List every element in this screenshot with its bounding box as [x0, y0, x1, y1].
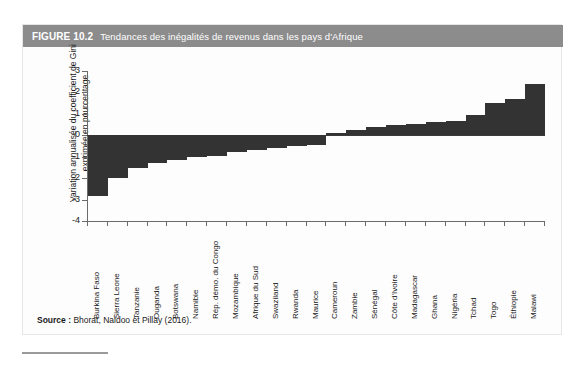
x-tick-mark — [405, 221, 406, 226]
y-tick-mark — [82, 71, 87, 72]
x-tick-mark — [345, 221, 346, 226]
bar[interactable] — [187, 135, 207, 156]
source-text: Bhorat, Naidoo et Pillay (2016). — [73, 315, 191, 325]
y-tick-mark — [82, 114, 87, 115]
x-tick-mark — [266, 221, 267, 226]
y-tick-label: -3 — [72, 194, 80, 204]
bar[interactable] — [307, 135, 327, 145]
chart-plot-area: Variation annualisée du coefficient de G… — [87, 47, 549, 332]
x-tick-mark — [127, 221, 128, 226]
x-tick-mark — [465, 221, 466, 226]
figure-number: FIGURE 10.2 — [32, 31, 93, 42]
x-category-label: Botswana — [172, 284, 180, 319]
x-tick-mark — [87, 221, 88, 226]
bar[interactable] — [386, 125, 406, 136]
x-category-label: Togo — [490, 302, 498, 319]
bar[interactable] — [88, 135, 108, 196]
y-tick-mark — [82, 178, 87, 179]
x-tick-mark — [425, 221, 426, 226]
bar[interactable] — [267, 135, 287, 148]
x-tick-mark — [226, 221, 227, 226]
x-category-label: Maurice — [312, 291, 320, 319]
y-tick-mark — [82, 157, 87, 158]
x-category-label: Rwanda — [292, 290, 300, 319]
bar[interactable] — [505, 99, 525, 135]
figure-card: FIGURE 10.2 Tendances des inégalités de … — [22, 24, 562, 335]
x-tick-mark — [186, 221, 187, 226]
bar[interactable] — [406, 124, 426, 136]
x-tick-mark — [246, 221, 247, 226]
x-tick-mark — [385, 221, 386, 226]
x-tick-mark — [286, 221, 287, 226]
y-axis-title-holder: Variation annualisée du coefficient de G… — [39, 91, 59, 211]
x-category-label: Sénégal — [371, 290, 379, 319]
bar[interactable] — [128, 135, 148, 168]
bar[interactable] — [485, 103, 505, 135]
x-tick-mark — [306, 221, 307, 226]
source-label: Source : — [37, 315, 71, 325]
x-category-label: Rép. démo. du Congo — [212, 241, 220, 319]
x-tick-mark — [524, 221, 525, 226]
y-tick-label: -2 — [72, 172, 80, 182]
x-category-label: Tchad — [470, 298, 478, 319]
bar[interactable] — [366, 127, 386, 136]
bar[interactable] — [326, 133, 346, 135]
x-tick-mark — [147, 221, 148, 226]
x-tick-mark — [107, 221, 108, 226]
bar[interactable] — [207, 135, 227, 155]
bar[interactable] — [247, 135, 267, 150]
bar[interactable] — [148, 135, 168, 163]
bar[interactable] — [346, 130, 366, 135]
x-category-label: Éthiopie — [510, 290, 518, 319]
bar[interactable] — [466, 115, 486, 135]
x-tick-mark — [544, 221, 545, 226]
figure-header: FIGURE 10.2 Tendances des inégalités de … — [23, 25, 563, 47]
bar[interactable] — [287, 135, 307, 146]
x-category-label: Malawi — [530, 294, 538, 319]
x-category-label: Ghana — [431, 295, 439, 319]
bar[interactable] — [108, 135, 128, 178]
y-tick-label: 0 — [75, 129, 80, 139]
x-category-label: Afrique du Sud — [252, 266, 260, 319]
y-tick-mark — [82, 92, 87, 93]
x-axis-line — [87, 221, 545, 222]
y-tick-label: -4 — [72, 215, 80, 225]
x-category-label: Zambie — [351, 292, 359, 319]
x-category-label: Burkina Faso — [93, 272, 101, 319]
x-tick-mark — [206, 221, 207, 226]
x-category-label: Namibie — [192, 290, 200, 319]
x-category-label: Côte d'Ivoire — [391, 274, 399, 319]
x-axis-category-labels: Burkina FasoSierra LeoneTanzanieOugandaB… — [88, 229, 545, 319]
x-tick-mark — [484, 221, 485, 226]
bottom-rule — [22, 352, 108, 354]
x-category-label: Swaziland — [272, 283, 280, 319]
bar[interactable] — [227, 135, 247, 152]
x-tick-mark — [365, 221, 366, 226]
x-category-label: Madagascar — [411, 275, 419, 319]
y-tick-label: 3 — [75, 65, 80, 75]
x-tick-mark — [445, 221, 446, 226]
x-tick-mark — [504, 221, 505, 226]
bar[interactable] — [525, 84, 545, 135]
x-category-label: Mozambique — [232, 273, 240, 319]
bar[interactable] — [426, 122, 446, 135]
y-tick-label: -1 — [72, 151, 80, 161]
x-tick-mark — [166, 221, 167, 226]
bar-series — [88, 71, 545, 221]
x-tick-mark — [325, 221, 326, 226]
x-category-label: Cameroun — [331, 282, 339, 319]
y-tick-mark — [82, 200, 87, 201]
bar[interactable] — [167, 135, 187, 160]
figure-title: Tendances des inégalités de revenus dans… — [100, 31, 363, 42]
y-tick-label: 1 — [75, 108, 80, 118]
y-tick-mark — [82, 135, 87, 136]
x-category-label: Nigéria — [451, 294, 459, 319]
x-category-label: Sierra Leone — [113, 273, 121, 319]
bar[interactable] — [446, 121, 466, 135]
source-note: Source : Bhorat, Naidoo et Pillay (2016)… — [37, 315, 192, 325]
y-tick-label: 2 — [75, 86, 80, 96]
